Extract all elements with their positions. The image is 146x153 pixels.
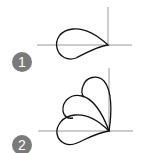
figure-2-petal-middle <box>63 95 109 131</box>
figure-2-petal-top <box>82 77 111 131</box>
figure-2 <box>38 68 133 145</box>
diagram-canvas <box>0 0 146 153</box>
figure-2-petal-bottom <box>57 115 109 145</box>
figure-1-loop <box>57 29 108 59</box>
figure-1 <box>37 7 132 59</box>
figure-1-badge: 1 <box>12 52 32 72</box>
figure-2-badge: 2 <box>12 135 32 153</box>
